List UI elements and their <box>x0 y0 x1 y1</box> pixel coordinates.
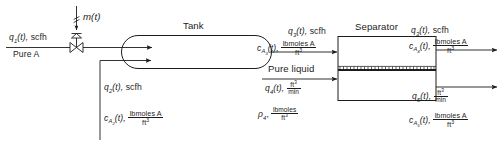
liquid-feed-title-label: Pure liquid <box>268 64 314 74</box>
separator-membrane <box>338 66 436 70</box>
tank-label: Tank <box>183 21 204 31</box>
separator-liquid-outlet-concentration-label: cA5(t), lbmoles Aft3 <box>409 112 468 129</box>
feed-gas-purity-label: Pure A <box>13 50 39 59</box>
recycle-gas-concentration-label: cA2(t), lbmoles Aft3 <box>104 110 163 127</box>
separator-gas-outlet-concentration-label: cA4(t), lbmoles Aft3 <box>409 38 468 55</box>
process-flow-diagram: m(t) q1(t), scfh Pure A Tank q2(t), scfh… <box>0 0 501 150</box>
separator-label: Separator <box>355 22 398 32</box>
tank-outlet-flow-label: q3(t), scfh <box>288 27 326 38</box>
recycle-gas-flow-label: q2(t), scfh <box>104 83 142 94</box>
separator-liquid-outlet-flow-label: q5(t), ft3min <box>412 89 448 104</box>
recycle-gas-line <box>100 61 151 141</box>
liquid-feed-flow-label: q4(t), ft3min <box>265 81 301 96</box>
separator-gas-outlet-flow-label: q3(t), scfh <box>411 26 449 37</box>
tank-vessel <box>122 36 272 69</box>
valve-signal-line <box>74 6 80 30</box>
feed-gas-flow-label: q1(t), scfh <box>9 33 47 44</box>
tank-outlet-concentration-label: cA3(t), lbmoles Aft3 <box>257 40 316 57</box>
liquid-feed-density-label: ρ4, lbmolesft3 <box>258 107 298 122</box>
valve-signal-label: m(t) <box>83 12 100 22</box>
control-valve <box>70 34 83 53</box>
